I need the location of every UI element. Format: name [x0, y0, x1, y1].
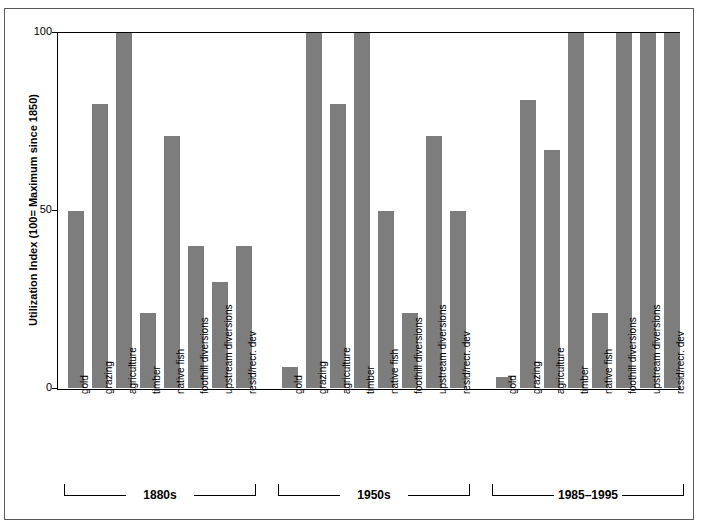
- x-axis-tick-label: native fish: [390, 349, 400, 394]
- x-axis-tick-label: native fish: [176, 349, 186, 394]
- x-axis-tick-label: foothill diversions: [628, 317, 638, 394]
- bar: [568, 33, 584, 388]
- group-label: 1985–1995: [492, 488, 684, 502]
- y-tick-label-50: 50: [26, 203, 52, 215]
- x-axis-tick-label: gold: [508, 375, 518, 394]
- y-tick-label-100: 100: [26, 25, 52, 37]
- group-label: 1950s: [278, 488, 470, 502]
- x-axis-tick-label: resid/recr. dev: [248, 331, 258, 394]
- bars-layer: [58, 33, 678, 388]
- x-axis-tick-label: resid/recr. dev: [676, 331, 686, 394]
- x-axis-tick-label: grazing: [104, 361, 114, 394]
- x-axis-tick-label: timber: [152, 366, 162, 394]
- x-axis-tick-label: resid/recr. dev: [462, 331, 472, 394]
- x-axis-tick-label: agriculture: [128, 347, 138, 394]
- x-axis-tick-label: upstream diversions: [652, 305, 662, 394]
- x-axis-tick-label: gold: [80, 375, 90, 394]
- group-brackets: 1880s1950s1985–1995: [58, 484, 678, 514]
- group-label: 1880s: [64, 488, 256, 502]
- x-axis-tick-label: foothill diversions: [414, 317, 424, 394]
- bar: [68, 211, 84, 389]
- x-axis-tick-label: timber: [580, 366, 590, 394]
- x-axis-tick-label: upstream diversions: [224, 305, 234, 394]
- bar: [92, 104, 108, 388]
- bar: [330, 104, 346, 388]
- x-axis-tick-label: grazing: [532, 361, 542, 394]
- y-tick-label-0: 0: [26, 381, 52, 393]
- bar: [354, 33, 370, 388]
- x-axis-tick-label: agriculture: [342, 347, 352, 394]
- x-axis-tick-label: upstream diversions: [438, 305, 448, 394]
- bar: [116, 33, 132, 388]
- x-axis-tick-label: native fish: [604, 349, 614, 394]
- x-axis-tick-label: gold: [294, 375, 304, 394]
- x-axis-tick-label: agriculture: [556, 347, 566, 394]
- bar: [520, 100, 536, 388]
- bar: [306, 33, 322, 388]
- x-axis-tick-label: timber: [366, 366, 376, 394]
- x-axis-tick-label: foothill diversions: [200, 317, 210, 394]
- x-axis-tick-label: grazing: [318, 361, 328, 394]
- x-axis-labels: goldgrazingagriculturetimbernative fishf…: [58, 392, 678, 478]
